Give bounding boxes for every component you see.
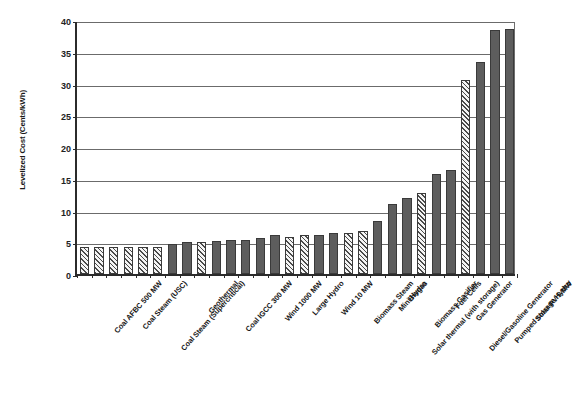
bar <box>461 80 470 274</box>
bar <box>388 204 397 274</box>
bar <box>226 240 235 274</box>
bar <box>168 244 177 274</box>
x-tick-mark <box>370 274 371 278</box>
x-tick-mark <box>297 274 298 278</box>
x-tick-mark <box>268 274 269 278</box>
bar <box>94 247 103 274</box>
x-tick-mark <box>458 274 459 278</box>
x-tick-mark <box>341 274 342 278</box>
x-tick-mark <box>312 274 313 278</box>
x-tick-mark <box>194 274 195 278</box>
x-tick-mark <box>136 274 137 278</box>
x-tick-mark <box>473 274 474 278</box>
x-tick-mark <box>121 274 122 278</box>
bar <box>241 240 250 274</box>
x-tick-mark <box>429 274 430 278</box>
plot-area: 0510152025303540 <box>75 22 515 276</box>
bar <box>446 170 455 274</box>
x-tick-mark <box>502 274 503 278</box>
x-tick-mark <box>150 274 151 278</box>
x-tick-mark <box>165 274 166 278</box>
x-tick-label: Coal IGCC 300 MW <box>244 279 295 334</box>
x-tick-mark <box>238 274 239 278</box>
x-tick-mark <box>209 274 210 278</box>
x-axis-labels: Coal AFBC 500 MWCoal Steam (USC)Coal Ste… <box>75 279 535 399</box>
bar <box>270 235 279 274</box>
bar <box>138 247 147 274</box>
bar <box>344 233 353 274</box>
x-tick-mark <box>282 274 283 278</box>
x-tick-label: Coal Steam (Supercritical) <box>179 279 246 352</box>
x-tick-mark <box>92 274 93 278</box>
bar <box>285 237 294 274</box>
bar <box>197 242 206 274</box>
x-tick-mark <box>224 274 225 278</box>
bar <box>300 235 309 274</box>
bar <box>432 174 441 274</box>
bar <box>329 233 338 274</box>
bar <box>373 221 382 274</box>
x-tick-mark <box>444 274 445 278</box>
bar <box>153 247 162 274</box>
y-axis-title: Levelized Cost (Cents/kWh) <box>18 40 27 240</box>
bar <box>124 247 133 274</box>
x-tick-mark <box>414 274 415 278</box>
bar <box>109 247 118 274</box>
bar <box>80 247 89 274</box>
x-tick-mark <box>106 274 107 278</box>
bar <box>256 238 265 274</box>
x-tick-mark <box>488 274 489 278</box>
bar-series <box>77 22 515 274</box>
bar <box>182 242 191 274</box>
bar <box>358 231 367 274</box>
bar <box>417 193 426 274</box>
bar <box>314 235 323 274</box>
x-tick-mark <box>253 274 254 278</box>
bar <box>212 241 221 274</box>
x-tick-label: Coal Steam (USC) <box>140 279 188 331</box>
x-tick-mark <box>517 274 518 278</box>
y-axis-title-container: Levelized Cost (Cents/kWh) <box>0 0 56 290</box>
x-tick-mark <box>356 274 357 278</box>
bar <box>402 198 411 274</box>
x-tick-mark <box>77 274 78 278</box>
x-tick-mark <box>385 274 386 278</box>
x-tick-mark <box>400 274 401 278</box>
bar <box>490 30 499 274</box>
x-tick-mark <box>180 274 181 278</box>
bar <box>476 62 485 274</box>
bar <box>505 29 514 274</box>
x-tick-mark <box>326 274 327 278</box>
